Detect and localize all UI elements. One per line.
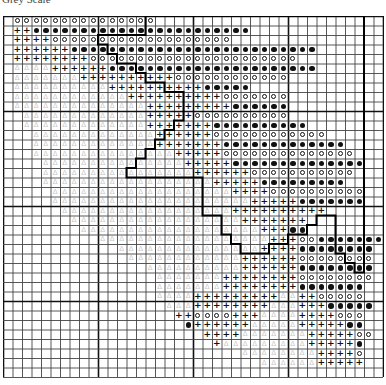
- cell-triangle: Δ: [155, 168, 165, 178]
- dot-icon: [81, 28, 87, 34]
- ring-icon: [262, 113, 267, 118]
- cell-triangle: Δ: [89, 206, 99, 216]
- triangle-icon: Δ: [91, 169, 96, 177]
- dot-icon: [328, 142, 334, 148]
- plus-icon: +: [241, 206, 249, 215]
- dot-icon: [262, 142, 268, 148]
- cell-triangle: Δ: [13, 92, 23, 102]
- triangle-icon: Δ: [214, 273, 219, 281]
- triangle-icon: Δ: [72, 150, 77, 158]
- dot-icon: [376, 237, 382, 243]
- cell-triangle: Δ: [89, 159, 99, 169]
- cell-triangle: Δ: [70, 102, 80, 112]
- triangle-icon: Δ: [53, 140, 58, 148]
- cell-ring: [355, 254, 365, 264]
- triangle-icon: Δ: [81, 197, 86, 205]
- dot-icon: [300, 161, 306, 167]
- plus-icon: +: [232, 301, 240, 310]
- cell-triangle: Δ: [108, 149, 118, 159]
- ring-icon: [319, 151, 324, 156]
- triangle-icon: Δ: [62, 93, 67, 101]
- dot-icon: [347, 246, 353, 252]
- dot-icon: [195, 47, 201, 53]
- cell-dot: [174, 45, 184, 55]
- cell-triangle: Δ: [165, 206, 175, 216]
- ring-icon: [81, 18, 86, 23]
- cell-triangle: Δ: [136, 197, 146, 207]
- ring-icon: [195, 113, 200, 118]
- cell-triangle: Δ: [117, 92, 127, 102]
- cell-dot: [317, 159, 327, 169]
- cell-triangle: Δ: [117, 140, 127, 150]
- triangle-icon: Δ: [53, 102, 58, 110]
- cell-dot: [127, 26, 137, 36]
- ring-icon: [243, 56, 248, 61]
- dot-icon: [300, 227, 306, 233]
- cell-triangle: Δ: [155, 206, 165, 216]
- cell-triangle: Δ: [22, 73, 32, 83]
- dot-icon: [224, 85, 230, 91]
- cell-dot: [298, 140, 308, 150]
- ring-icon: [357, 256, 362, 261]
- triangle-icon: Δ: [138, 178, 143, 186]
- ring-icon: [300, 151, 305, 156]
- triangle-icon: Δ: [271, 349, 276, 357]
- triangle-icon: Δ: [271, 302, 276, 310]
- cell-triangle: Δ: [13, 83, 23, 93]
- ring-icon: [129, 37, 134, 42]
- plus-icon: +: [70, 64, 78, 73]
- dot-icon: [233, 85, 239, 91]
- cell-dot: [241, 26, 251, 36]
- cell-triangle: Δ: [32, 92, 42, 102]
- cell-triangle: Δ: [174, 254, 184, 264]
- plus-icon: +: [213, 92, 221, 101]
- triangle-icon: Δ: [53, 112, 58, 120]
- triangle-icon: Δ: [186, 197, 191, 205]
- ring-icon: [148, 56, 153, 61]
- triangle-icon: Δ: [43, 169, 48, 177]
- triangle-icon: Δ: [138, 226, 143, 234]
- cell-triangle: Δ: [203, 216, 213, 226]
- dot-icon: [91, 28, 97, 34]
- triangle-icon: Δ: [110, 159, 115, 167]
- cell-triangle: Δ: [288, 320, 298, 330]
- cell-ring: [155, 35, 165, 45]
- cell-triangle: Δ: [98, 159, 108, 169]
- triangle-icon: Δ: [138, 207, 143, 215]
- plus-icon: +: [203, 149, 211, 158]
- plus-icon: +: [327, 320, 335, 329]
- ring-icon: [214, 132, 219, 137]
- triangle-icon: Δ: [281, 349, 286, 357]
- cell-ring: [136, 16, 146, 26]
- dot-icon: [262, 123, 268, 129]
- plus-icon: +: [260, 301, 268, 310]
- cell-dot: [288, 121, 298, 131]
- cell-triangle: Δ: [193, 263, 203, 273]
- triangle-icon: Δ: [167, 178, 172, 186]
- cell-triangle: Δ: [117, 244, 127, 254]
- ring-icon: [281, 170, 286, 175]
- triangle-icon: Δ: [157, 283, 162, 291]
- triangle-icon: Δ: [72, 197, 77, 205]
- cell-ring: [250, 130, 260, 140]
- cell-triangle: Δ: [155, 149, 165, 159]
- cell-triangle: Δ: [136, 121, 146, 131]
- cell-dot: [184, 320, 194, 330]
- cell-dot: [222, 26, 232, 36]
- dot-icon: [138, 66, 144, 72]
- cell-triangle: Δ: [127, 168, 137, 178]
- cell-plus: +: [203, 330, 213, 340]
- cell-triangle: Δ: [146, 149, 156, 159]
- cell-ring: [260, 73, 270, 83]
- cell-plus: +: [51, 64, 61, 74]
- plus-icon: +: [32, 35, 40, 44]
- cell-ring: [79, 35, 89, 45]
- ring-icon: [309, 256, 314, 261]
- dot-icon: [357, 284, 363, 290]
- plus-icon: +: [241, 301, 249, 310]
- dot-icon: [262, 66, 268, 72]
- plus-icon: +: [317, 301, 325, 310]
- ring-icon: [319, 275, 324, 280]
- dot-icon: [309, 66, 315, 72]
- cell-triangle: Δ: [165, 149, 175, 159]
